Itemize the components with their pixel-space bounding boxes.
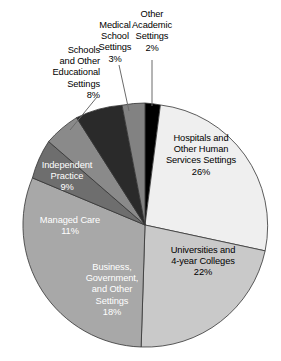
slice-label-hospitals-and-other-human-services-settings: Hospitals and Other Human Services Setti… [151, 133, 251, 178]
callout-label-schools-and-other-educational-settings: Schools and Other Educational Settings 8… [4, 45, 100, 101]
leader-line-medical-school [119, 65, 129, 111]
pie-chart-figure: Schools and Other Educational Settings 8… [0, 0, 281, 361]
callout-label-other-academic-settings: Other Academic Settings 2% [115, 9, 189, 54]
slice-label-managed-care: Managed Care 11% [23, 215, 117, 237]
slice-label-business-government-and-other-settings: Business, Government, and Other Settings… [75, 262, 149, 318]
slice-label-universities-and-4-year-colleges: Universities and 4-year Colleges 22% [155, 245, 251, 279]
slice-label-independent-practice: Independent Practice 9% [27, 160, 107, 194]
